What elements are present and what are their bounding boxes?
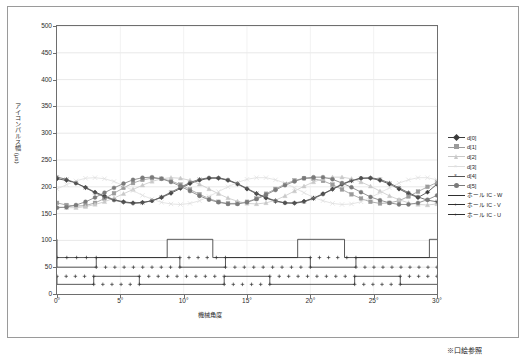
plot-wrapper: アイコンパルス幅 (μs) 機械角度 050100150200250300350… xyxy=(8,7,518,337)
y-tick-label: 200 xyxy=(22,183,52,190)
x-tick-label: 5° xyxy=(106,297,134,304)
y-tick-mark xyxy=(53,160,56,161)
legend-swatch-icon xyxy=(448,182,465,190)
legend-label: d[5] xyxy=(467,183,476,189)
x-tick-label: 30° xyxy=(423,297,451,304)
legend-item: +ホール IC - U xyxy=(448,210,510,220)
y-tick-label: 300 xyxy=(22,129,52,136)
legend-item: d[1] xyxy=(448,143,510,153)
y-tick-mark xyxy=(53,106,56,107)
x-tick-mark xyxy=(247,295,248,298)
y-tick-label: 150 xyxy=(22,210,52,217)
y-tick-label: 450 xyxy=(22,49,52,56)
y-tick-label: 250 xyxy=(22,156,52,163)
y-tick-mark xyxy=(53,294,56,295)
x-tick-label: 15° xyxy=(233,297,261,304)
x-tick-mark xyxy=(374,295,375,298)
legend-swatch-icon xyxy=(448,191,465,199)
y-tick-label: 500 xyxy=(22,22,52,29)
plot-area xyxy=(56,25,438,295)
legend-item: d[2] xyxy=(448,152,510,162)
x-tick-label: 25° xyxy=(360,297,388,304)
legend-swatch-icon xyxy=(448,143,465,151)
legend-item: ×d[4] xyxy=(448,171,510,181)
legend-label: ホール IC - W xyxy=(467,191,502,199)
x-tick-mark xyxy=(184,295,185,298)
legend-swatch-icon: × xyxy=(448,172,465,180)
y-tick-label: 350 xyxy=(22,102,52,109)
legend-swatch-icon: × xyxy=(448,163,465,171)
legend-label: d[2] xyxy=(467,154,476,160)
legend-item: ×d[3] xyxy=(448,162,510,172)
y-tick-mark xyxy=(53,53,56,54)
y-tick-mark xyxy=(53,267,56,268)
x-tick-label: 0° xyxy=(43,297,71,304)
legend-item: +ホール IC - V xyxy=(448,200,510,210)
y-axis-label: アイコンパルス幅 (μs) xyxy=(10,103,22,164)
chart-frame: アイコンパルス幅 (μs) 機械角度 050100150200250300350… xyxy=(7,6,519,338)
y-tick-mark xyxy=(53,80,56,81)
chart-legend: d[0]d[1]d[2]×d[3]×d[4]d[5]ホール IC - W+ホール… xyxy=(448,133,510,219)
x-tick-mark xyxy=(120,295,121,298)
legend-label: ホール IC - U xyxy=(467,211,501,219)
y-tick-mark xyxy=(53,240,56,241)
x-tick-mark xyxy=(57,295,58,298)
legend-swatch-icon xyxy=(448,153,465,161)
x-tick-label: 10° xyxy=(170,297,198,304)
y-tick-mark xyxy=(53,187,56,188)
chart-canvas xyxy=(57,26,437,294)
x-axis-label: 機械角度 xyxy=(198,310,222,319)
y-tick-label: 50 xyxy=(22,263,52,270)
legend-label: d[1] xyxy=(467,144,476,150)
x-tick-mark xyxy=(310,295,311,298)
legend-label: d[4] xyxy=(467,173,476,179)
x-tick-mark xyxy=(437,295,438,298)
legend-item: ホール IC - W xyxy=(448,191,510,201)
legend-label: d[3] xyxy=(467,164,476,170)
x-tick-label: 20° xyxy=(296,297,324,304)
y-tick-mark xyxy=(53,214,56,215)
y-tick-label: 100 xyxy=(22,236,52,243)
legend-swatch-icon: + xyxy=(448,211,465,219)
y-tick-mark xyxy=(53,133,56,134)
legend-label: d[0] xyxy=(467,135,476,141)
legend-swatch-icon xyxy=(448,134,465,142)
legend-item: d[5] xyxy=(448,181,510,191)
footnote-text: ※口絵参照 xyxy=(447,345,482,355)
legend-swatch-icon: + xyxy=(448,201,465,209)
y-tick-mark xyxy=(53,26,56,27)
legend-item: d[0] xyxy=(448,133,510,143)
legend-label: ホール IC - V xyxy=(467,201,501,209)
y-tick-label: 0 xyxy=(22,290,52,297)
y-tick-label: 400 xyxy=(22,76,52,83)
